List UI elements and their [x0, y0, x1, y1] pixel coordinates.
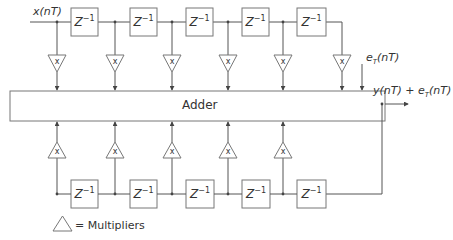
delay-exp: −1: [254, 186, 266, 195]
delay-block: Z−1: [71, 186, 98, 201]
delay-base: Z: [74, 187, 82, 201]
input-label: x(nT): [33, 5, 62, 18]
output-label: y(nT) + eT(nT): [373, 84, 451, 99]
multiplier-icon: x: [109, 57, 121, 66]
delay-exp: −1: [142, 186, 154, 195]
delay-exp: −1: [254, 14, 266, 23]
delay-block: Z−1: [242, 186, 270, 201]
delay-block: Z−1: [130, 14, 157, 29]
delay-exp: −1: [198, 14, 210, 23]
delay-base: Z: [190, 187, 198, 201]
multiplier-icon: x: [336, 57, 348, 66]
delay-exp: −1: [83, 14, 95, 23]
error-label: eT(nT): [366, 51, 399, 66]
delay-block: Z−1: [242, 14, 269, 29]
delay-base: Z: [74, 15, 82, 29]
multiplier-icon: x: [51, 147, 63, 156]
delay-base: Z: [301, 187, 309, 201]
output-label-base: y(nT) + e: [373, 84, 425, 97]
delay-block: Z−1: [186, 186, 214, 201]
multiplier-icon: x: [109, 147, 121, 156]
multiplier-icon: x: [51, 57, 63, 66]
delay-block: Z−1: [130, 186, 157, 201]
delay-block: Z−1: [186, 14, 213, 29]
multiplier-icon: x: [166, 147, 178, 156]
multiplier-icon: x: [222, 57, 234, 66]
error-label-arg: (nT): [377, 51, 399, 64]
error-label-base: e: [366, 51, 373, 64]
delay-base: Z: [245, 15, 253, 29]
multiplier-icon: x: [277, 147, 289, 156]
iir-filter-diagram: x(nT) eT(nT) y(nT) + eT(nT) Adder Z−1 Z−…: [0, 0, 453, 240]
delay-exp: −1: [83, 186, 95, 195]
diagram-lines: [0, 0, 453, 240]
multiplier-icon: x: [277, 57, 289, 66]
delay-exp: −1: [198, 186, 210, 195]
multiplier-icon: x: [222, 147, 234, 156]
legend-text: = Multipliers: [75, 219, 145, 232]
delay-base: Z: [133, 15, 141, 29]
delay-base: Z: [246, 187, 254, 201]
delay-block: Z−1: [297, 14, 326, 29]
multiplier-icon: x: [166, 57, 178, 66]
delay-base: Z: [301, 15, 309, 29]
adder-label: Adder: [182, 98, 218, 112]
delay-exp: −1: [142, 14, 154, 23]
delay-exp: −1: [310, 14, 322, 23]
output-label-arg: (nT): [429, 84, 451, 97]
delay-base: Z: [189, 15, 197, 29]
delay-block: Z−1: [297, 186, 326, 201]
delay-block: Z−1: [71, 14, 98, 29]
delay-exp: −1: [310, 186, 322, 195]
delay-base: Z: [133, 187, 141, 201]
